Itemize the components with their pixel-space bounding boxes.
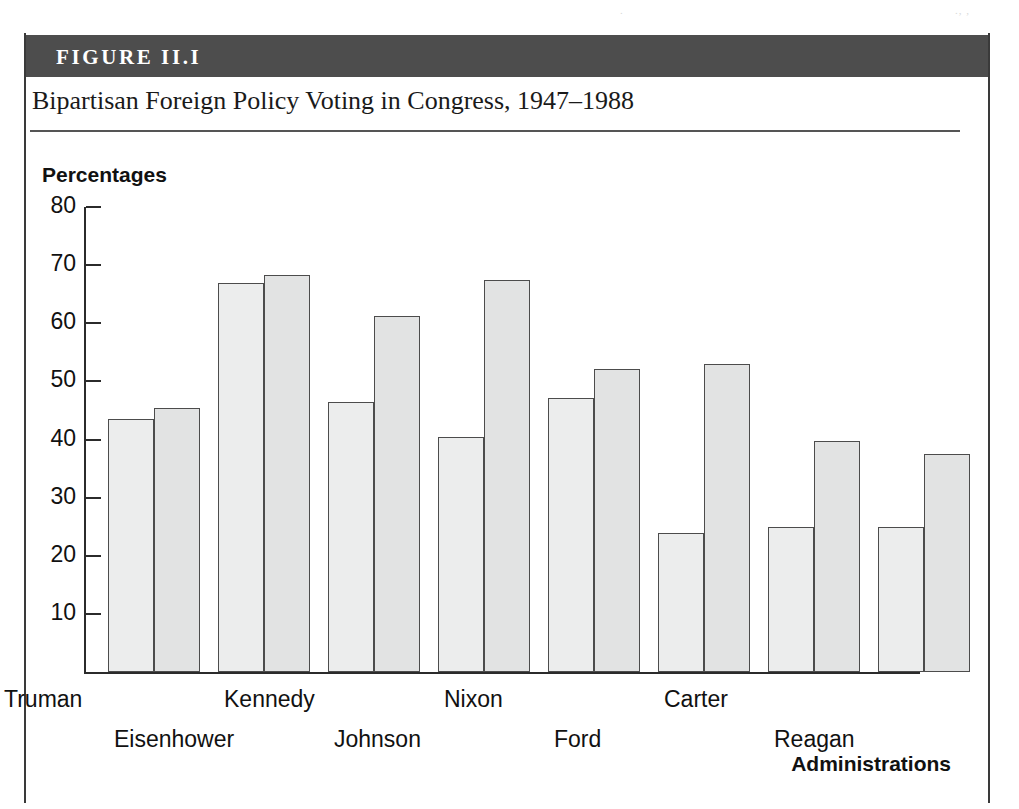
- x-axis-line: [84, 672, 920, 674]
- bar: [768, 527, 814, 672]
- y-axis-tick: [86, 497, 101, 499]
- bar: [548, 398, 594, 672]
- x-axis-title: Administrations: [791, 752, 951, 776]
- bar: [658, 533, 704, 673]
- figure-root: . ., , FIGURE II.I Bipartisan Foreign Po…: [0, 0, 1019, 809]
- x-axis-category-label: Reagan: [774, 726, 855, 753]
- bar: [218, 283, 264, 672]
- x-axis-category-label: Johnson: [334, 726, 421, 753]
- bar: [374, 316, 420, 672]
- y-axis-tick-label: 40: [32, 425, 76, 452]
- bar: [438, 437, 484, 672]
- y-axis-line: [84, 207, 86, 674]
- bar: [704, 364, 750, 672]
- y-axis-tick: [86, 264, 101, 266]
- x-axis-category-label: Ford: [554, 726, 601, 753]
- bar: [108, 419, 154, 672]
- y-axis-tick: [86, 613, 101, 615]
- bar: [594, 369, 640, 672]
- x-axis-category-label: Kennedy: [224, 686, 315, 713]
- y-axis-tick-label: 10: [32, 599, 76, 626]
- bar: [878, 527, 924, 672]
- y-axis-tick-label: 80: [32, 192, 76, 219]
- bar: [814, 441, 860, 672]
- x-axis-category-label: Eisenhower: [114, 726, 234, 753]
- x-axis-category-label: Carter: [664, 686, 728, 713]
- x-axis-category-label: Nixon: [444, 686, 503, 713]
- y-axis-tick: [86, 380, 101, 382]
- bar: [264, 275, 310, 672]
- y-axis-tick: [86, 322, 101, 324]
- bar: [154, 408, 200, 672]
- y-axis-tick-label: 50: [32, 366, 76, 393]
- y-axis-tick-label: 20: [32, 541, 76, 568]
- chart-plot-area: 1020304050607080TrumanEisenhowerKennedyJ…: [0, 0, 1019, 809]
- y-axis-tick-label: 30: [32, 483, 76, 510]
- x-axis-category-label: Truman: [4, 686, 82, 713]
- bar: [484, 280, 530, 672]
- y-axis-tick-label: 70: [32, 250, 76, 277]
- y-axis-tick-label: 60: [32, 308, 76, 335]
- y-axis-tick: [86, 555, 101, 557]
- y-axis-tick: [86, 439, 101, 441]
- bar: [924, 454, 970, 672]
- bar: [328, 402, 374, 672]
- y-axis-tick: [86, 206, 101, 208]
